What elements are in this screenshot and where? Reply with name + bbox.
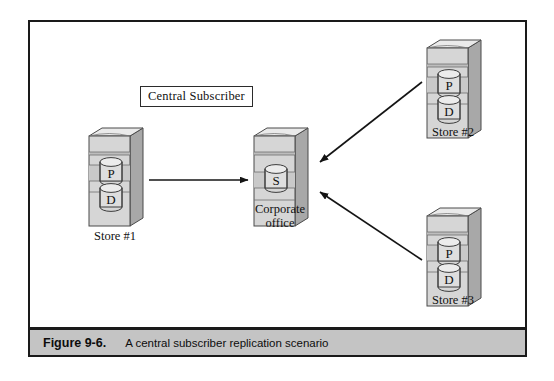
server-tower-store-1 — [89, 128, 143, 226]
server-tower-store-2 — [427, 40, 481, 138]
node-label-corporate-office-line1: Corporate — [235, 202, 325, 216]
server-tower-store-3 — [427, 208, 481, 306]
node-label-corporate-office-line2: office — [235, 216, 325, 230]
node-label-store-2: Store #2 — [408, 125, 498, 139]
figure-frame: P D — [28, 20, 527, 357]
figure-caption-title: A central subscriber replication scenari… — [125, 337, 328, 349]
node-label-corporate-office: Corporate office — [235, 202, 325, 230]
node-label-store-1: Store #1 — [70, 229, 160, 243]
replication-topology-diagram: P D — [30, 22, 525, 327]
arrow-store3-to-corporate — [320, 192, 422, 260]
figure-caption-number: Figure 9-6. — [43, 336, 106, 350]
node-label-store-3: Store #3 — [408, 293, 498, 307]
arrow-store2-to-corporate — [320, 82, 422, 162]
figure-caption-bar: Figure 9-6. A central subscriber replica… — [30, 327, 525, 355]
diagram-canvas: P D — [30, 22, 525, 327]
central-subscriber-label-box: Central Subscriber — [140, 86, 253, 107]
